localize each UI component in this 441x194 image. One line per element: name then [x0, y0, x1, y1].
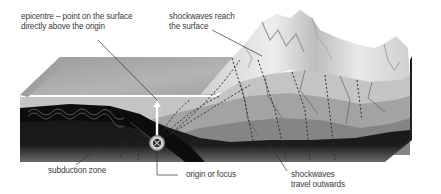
epicentre-label-line-1: epicentre – point on the surface	[21, 12, 133, 22]
shockwaves-reach-label-line-2: the surface	[169, 22, 235, 32]
origin-label: origin or focus	[186, 170, 236, 180]
epicentre-label: epicentre – point on the surface directl…	[21, 12, 133, 32]
epicentre-label-line-2: directly above the origin	[21, 22, 133, 32]
shockwaves-travel-label: shockwaves travel outwards	[291, 170, 345, 190]
earthquake-diagram: epicentre – point on the surface directl…	[0, 0, 441, 194]
shockwaves-travel-label-line-2: travel outwards	[291, 180, 345, 190]
shockwaves-reach-label-line-1: shockwaves reach	[169, 12, 235, 22]
focus-marker	[150, 136, 165, 151]
subduction-zone-label: subduction zone	[48, 166, 106, 176]
shockwaves-reach-label: shockwaves reach the surface	[169, 12, 235, 32]
shockwaves-travel-label-line-1: shockwaves	[291, 170, 345, 180]
